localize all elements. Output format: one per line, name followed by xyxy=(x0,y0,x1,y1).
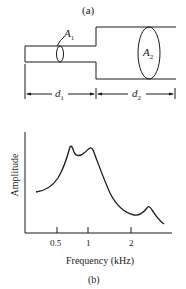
area1-symbol: A xyxy=(64,27,71,39)
tube-diagram xyxy=(25,27,176,99)
area2-subscript: 2 xyxy=(150,53,154,61)
area1-cross-section xyxy=(57,46,64,62)
dim1-subscript: 1 xyxy=(61,94,65,102)
y-axis-label: Amplitude xyxy=(10,150,20,200)
x-axis-label: Frequency (kHz) xyxy=(66,256,134,266)
area2-label: A2 xyxy=(143,47,153,61)
area1-label: A1 xyxy=(64,28,74,42)
x-tick-label-2: 2 xyxy=(129,239,134,248)
area1-subscript: 1 xyxy=(71,34,75,42)
area2-symbol: A xyxy=(143,46,150,58)
figure-canvas xyxy=(0,0,186,289)
dim1-label: d1 xyxy=(55,88,64,102)
panel-a-label: (a) xyxy=(82,5,94,16)
x-tick-label-0.5: 0.5 xyxy=(50,239,61,248)
dim2-subscript: 2 xyxy=(138,94,142,102)
x-tick-label-1: 1 xyxy=(86,239,91,248)
panel-b-label: (b) xyxy=(88,275,100,285)
dim2-label: d2 xyxy=(132,88,141,102)
amplitude-curve xyxy=(36,146,164,224)
chart-axes xyxy=(25,132,172,233)
area1-leader-line xyxy=(57,37,64,46)
